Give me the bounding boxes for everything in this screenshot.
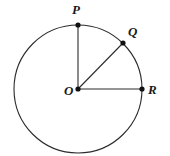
radius-segment-oq <box>78 43 123 89</box>
circle-diagram: O P Q R <box>0 0 170 156</box>
point-dot-p <box>75 22 80 27</box>
point-dot-r <box>139 86 144 91</box>
point-label-q: Q <box>128 24 138 39</box>
point-dot-q <box>120 40 125 45</box>
point-dot-o <box>75 86 80 91</box>
point-label-o: O <box>64 83 74 98</box>
point-label-p: P <box>72 2 81 17</box>
figure-canvas: O P Q R <box>0 0 170 156</box>
point-label-r: R <box>147 82 157 97</box>
